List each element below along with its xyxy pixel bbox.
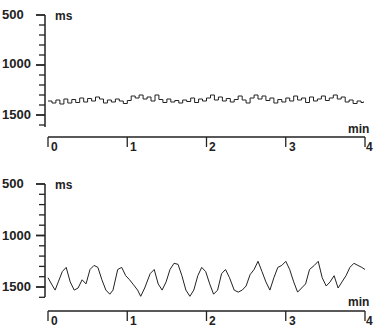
- upper-x-tick-3: 3: [289, 140, 296, 154]
- lower-y-unit-label: ms: [55, 178, 73, 192]
- lower-y-tick-1500: 1500: [2, 279, 31, 294]
- upper-y-unit-label: ms: [55, 9, 73, 23]
- upper-x-tick-2: 2: [209, 140, 216, 154]
- lower-y-tick-500: 500: [2, 176, 24, 191]
- upper-y-tick-1500: 1500: [2, 107, 31, 122]
- lower-x-tick-0: 0: [51, 314, 58, 328]
- upper-panel: ms 500 1000 1500 min 0 1 2 3 4: [2, 7, 373, 154]
- upper-y-tick-500: 500: [2, 7, 24, 22]
- lower-y-axis: [36, 184, 45, 297]
- figure: ms 500 1000 1500 min 0 1 2 3 4 ms 500 10…: [0, 0, 382, 335]
- upper-x-tick-4: 4: [366, 140, 373, 154]
- upper-x-axis: [48, 137, 365, 147]
- lower-x-tick-4: 4: [366, 314, 373, 328]
- lower-data-trace: [48, 261, 365, 296]
- upper-x-tick-0: 0: [51, 140, 58, 154]
- upper-y-axis: [36, 15, 45, 127]
- upper-data-trace: [48, 95, 363, 104]
- upper-x-unit-label: min: [348, 122, 369, 136]
- lower-x-tick-2: 2: [209, 314, 216, 328]
- upper-x-tick-1: 1: [130, 140, 137, 154]
- lower-x-unit-label: min: [348, 295, 369, 309]
- lower-x-axis: [48, 311, 365, 321]
- lower-y-tick-1000: 1000: [2, 228, 31, 243]
- lower-x-tick-1: 1: [130, 314, 137, 328]
- lower-x-tick-3: 3: [289, 314, 296, 328]
- lower-panel: ms 500 1000 1500 min 0 1 2 3 4: [2, 176, 373, 328]
- upper-y-tick-1000: 1000: [2, 56, 31, 71]
